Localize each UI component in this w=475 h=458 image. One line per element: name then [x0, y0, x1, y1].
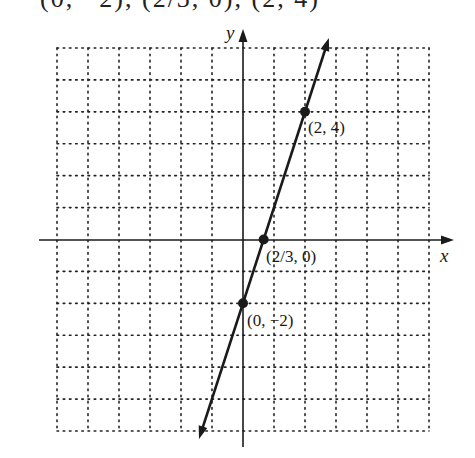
axes: x y [39, 22, 454, 447]
point-label-2-3-0: (2/3, 0) [266, 247, 316, 266]
point-label-0-neg2: (0, −2) [247, 311, 293, 330]
data-point [300, 107, 310, 117]
line-arrow-bottom-icon [199, 425, 208, 439]
point-labels: (2, 4) (2/3, 0) (0, −2) [247, 118, 345, 330]
line-arrow-top-icon [321, 38, 330, 52]
coordinate-plane: x y (2, 4) (2/3, 0) (0, −2) [0, 0, 475, 458]
data-point [259, 235, 269, 245]
x-axis-arrow-icon [441, 236, 454, 245]
y-axis-label: y [224, 22, 235, 43]
x-axis-label: x [439, 245, 449, 266]
y-axis-arrow-icon [239, 29, 248, 42]
data-point [238, 298, 248, 308]
point-label-2-4: (2, 4) [308, 118, 345, 137]
